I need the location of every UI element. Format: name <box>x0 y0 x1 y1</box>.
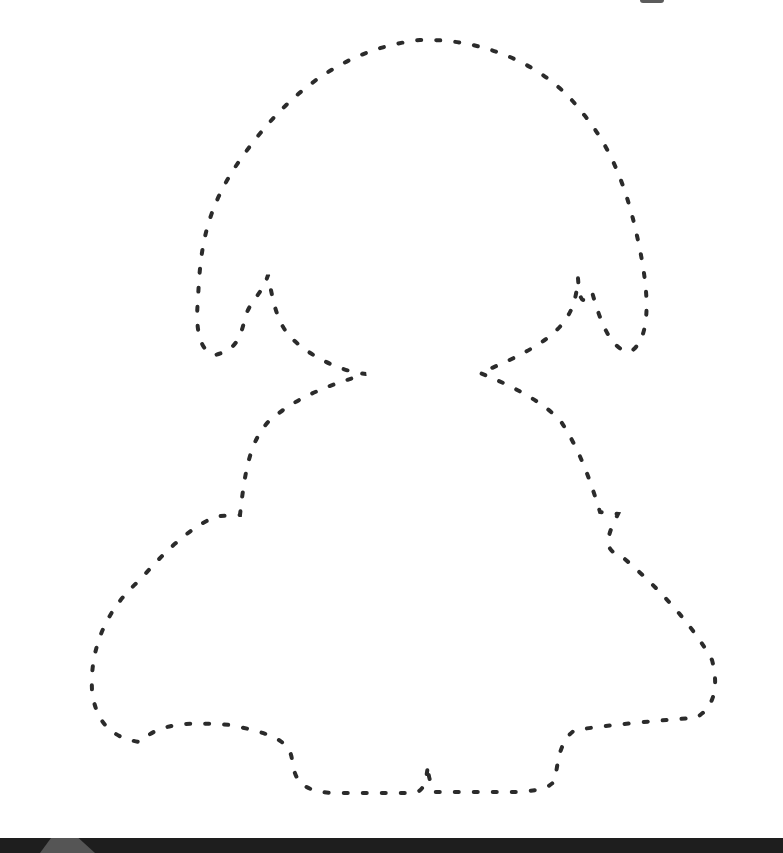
bottom-dark-band <box>0 838 783 853</box>
dotted-outline-path <box>92 40 715 793</box>
band-shade <box>40 838 95 853</box>
tracing-outline-girl <box>0 0 783 853</box>
